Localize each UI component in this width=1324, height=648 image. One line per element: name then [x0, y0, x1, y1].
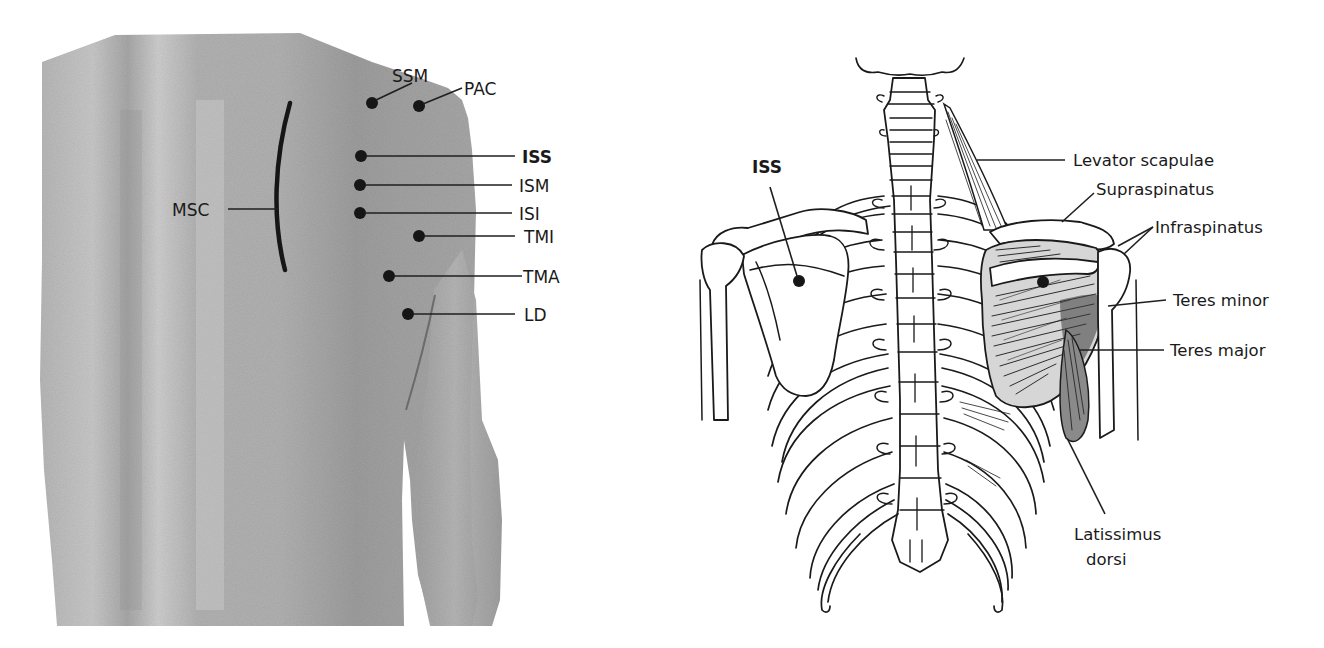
pac-label: PAC: [464, 79, 496, 99]
supra-label: Supraspinatus: [1096, 180, 1214, 199]
ld-point: [402, 308, 414, 320]
tma-point: [383, 270, 395, 282]
latissimus-leader: [1068, 440, 1105, 514]
skull-base: [856, 58, 964, 75]
spine-highlight: [196, 100, 224, 610]
latissimus-label-2: dorsi: [1086, 550, 1127, 569]
infra-label: Infraspinatus: [1155, 218, 1263, 237]
ism-point: [354, 179, 366, 191]
back-photo-panel: MSC SSM PAC ISS ISM ISI TMI TMA LD: [0, 0, 600, 648]
anatomy-drawing-panel: ISS: [680, 0, 1324, 648]
iss-label: ISS: [522, 147, 552, 167]
ssm-label: SSM: [392, 66, 428, 86]
ism-label: ISM: [519, 176, 549, 196]
torso-silhouette: [40, 33, 478, 626]
isi-label: ISI: [519, 204, 540, 224]
right-humerus: [1098, 249, 1130, 438]
anatomy-drawing: ISS: [680, 0, 1324, 648]
teres-major-label: Teres major: [1169, 341, 1266, 360]
right-iss-label: ISS: [752, 157, 782, 177]
ld-label: LD: [524, 305, 547, 325]
left-humerus: [701, 243, 744, 420]
tmi-label: TMI: [523, 227, 554, 247]
tmi-point: [413, 230, 425, 242]
isi-point: [354, 207, 366, 219]
pac-point: [413, 100, 425, 112]
tma-label: TMA: [522, 267, 560, 287]
levator-label: Levator scapulae: [1073, 151, 1214, 170]
latissimus-label-1: Latissimus: [1074, 525, 1161, 544]
back-photo: MSC SSM PAC ISS ISM ISI TMI TMA LD: [0, 0, 600, 648]
supra-leader: [1062, 193, 1094, 222]
iss-point: [355, 150, 367, 162]
teres-minor-label: Teres minor: [1172, 291, 1269, 310]
spine-shadow: [120, 110, 142, 610]
ssm-point: [366, 97, 378, 109]
left-shoulder: ISS: [700, 157, 868, 420]
right-muscle-point: [1037, 276, 1049, 288]
right-iss-point: [793, 275, 805, 287]
msc-label: MSC: [172, 200, 209, 220]
